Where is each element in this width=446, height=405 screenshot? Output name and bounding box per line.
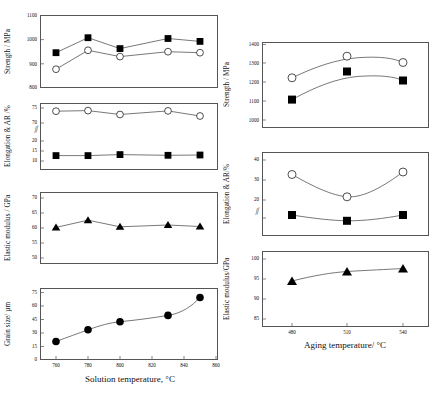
- markers-tensile: [288, 52, 407, 82]
- plot-area-left-strength: [40, 15, 218, 88]
- panel-right-strength: 1400 1300 1200 1100 1000 Strength / MPa: [262, 42, 429, 128]
- y-tick-label: 800: [19, 84, 37, 90]
- series-line-tensile: [56, 38, 200, 53]
- y-axis-title: Strength / MPa: [4, 15, 12, 88]
- panel-right-elongation: 40 30 20 ∕∕ Elongation & AR/%: [262, 152, 429, 236]
- plot-area-left-elongation: [40, 103, 218, 170]
- y-tick-label: 1400: [239, 41, 259, 47]
- x-tick-label: 760: [44, 362, 68, 368]
- y-tick-label: 75: [19, 104, 37, 110]
- y-tick-label: 65: [19, 209, 37, 215]
- markers-modulus: [287, 264, 408, 285]
- x-tick-label: 860: [204, 362, 228, 368]
- x-ticks: [292, 323, 403, 327]
- y-axis-title: Elongation & AR /%: [4, 103, 12, 170]
- panel-left-grainsize: 75 60 45 30 15 0 Grain size/ µm 760 780 …: [40, 288, 218, 360]
- y-ticks: [40, 293, 44, 360]
- series-line-ar: [56, 111, 200, 116]
- y-tick-label: 30: [239, 176, 259, 182]
- x-tick-label: 820: [140, 362, 164, 368]
- y-tick-label: 60: [19, 302, 37, 308]
- x-tick-label: 540: [391, 329, 415, 335]
- y-axis-title: Grain size/ µm: [4, 288, 12, 360]
- y-tick-label: 20: [239, 196, 259, 202]
- markers-elongation: [288, 211, 407, 225]
- y-ticks: [40, 108, 44, 161]
- y-tick-label: 100: [239, 255, 259, 261]
- y-tick-label: 30: [19, 329, 37, 335]
- y-tick-label: 70: [19, 194, 37, 200]
- y-tick-label: 85: [239, 315, 259, 321]
- y-ticks: [262, 160, 266, 218]
- x-tick-label: 480: [280, 329, 304, 335]
- y-axis-title: Strength / MPa: [223, 42, 231, 128]
- markers-grainsize: [52, 294, 204, 346]
- y-ticks: [262, 45, 266, 121]
- y-tick-label: 1100: [239, 98, 259, 104]
- y-tick-label: 40: [239, 156, 259, 162]
- y-ticks: [40, 198, 44, 258]
- y-tick-label: 55: [19, 239, 37, 245]
- panel-left-strength: 1100 1000 900 800 Strength / MPa: [40, 15, 218, 88]
- y-tick-label: 10: [19, 157, 37, 163]
- markers-yield: [288, 68, 407, 104]
- y-tick-label: 1200: [239, 79, 259, 85]
- plot-area-right-elongation: [262, 152, 429, 236]
- series-line-yield: [292, 76, 403, 100]
- y-tick-label: 50: [19, 254, 37, 260]
- series-line-modulus: [56, 220, 200, 227]
- markers-yield: [53, 47, 204, 73]
- y-tick-label: 60: [19, 224, 37, 230]
- y-tick-label: 15: [19, 343, 37, 349]
- y-tick-label: 45: [19, 316, 37, 322]
- y-tick-label: 75: [19, 289, 37, 295]
- axis-break-symbol: ∕∕: [254, 207, 260, 216]
- x-axis-title: Aging temperature/ °C: [250, 340, 440, 350]
- axis-break-symbol: ∕∕: [33, 125, 39, 134]
- y-tick-label: 900: [19, 61, 37, 67]
- y-tick-label: 1100: [19, 12, 37, 18]
- y-axis-title: Elongation & AR/%: [223, 152, 231, 236]
- y-tick-label: 20: [19, 137, 37, 143]
- plot-area-left-grainsize: [40, 288, 218, 360]
- y-tick-label: 0: [19, 356, 37, 362]
- x-axis-title: Solution temperature, °C: [30, 374, 230, 384]
- figure-canvas: 1100 1000 900 800 Strength / MPa: [0, 0, 446, 405]
- y-axis-title: Elastic modulus / GPa: [4, 192, 12, 264]
- y-ticks: [262, 259, 266, 319]
- y-axis-title: Elastic modulus/GPa: [223, 251, 231, 327]
- plot-area-left-modulus: [40, 192, 218, 264]
- x-ticks: [56, 356, 216, 360]
- y-ticks: [40, 16, 44, 88]
- y-tick-label: 15: [19, 147, 37, 153]
- y-tick-label: 1300: [239, 60, 259, 66]
- y-tick-label: 1000: [19, 36, 37, 42]
- panel-left-modulus: 70 65 60 55 50 Elastic modulus / GPa: [40, 192, 218, 264]
- series-line-yield: [56, 50, 200, 69]
- y-tick-label: 1000: [239, 117, 259, 123]
- x-tick-label: 510: [335, 329, 359, 335]
- series-line-elong: [56, 155, 200, 156]
- series-line-grainsize: [56, 298, 200, 342]
- x-tick-label: 800: [108, 362, 132, 368]
- x-tick-label: 780: [76, 362, 100, 368]
- panel-right-modulus: 100 95 90 85 Elastic modulus/GPa 480 510…: [262, 251, 429, 327]
- plot-area-right-modulus: [262, 251, 429, 327]
- x-tick-label: 840: [172, 362, 196, 368]
- y-tick-label: 90: [239, 295, 259, 301]
- panel-left-elongation: 75 70 20 15 10 ∕∕ Elongation & AR /%: [40, 103, 218, 170]
- markers-ar: [288, 168, 407, 201]
- y-tick-label: 95: [239, 275, 259, 281]
- markers-tensile: [53, 34, 204, 56]
- plot-area-right-strength: [262, 42, 429, 128]
